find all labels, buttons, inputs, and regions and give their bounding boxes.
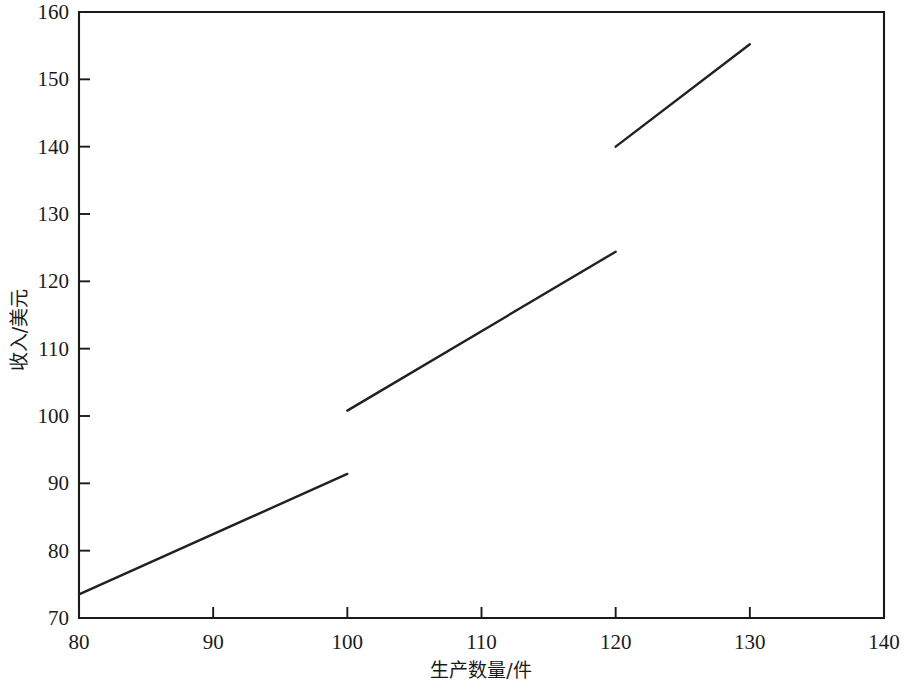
- x-tick-label-120: 120: [600, 630, 632, 654]
- y-tick-label-130: 130: [38, 202, 70, 226]
- x-tick-label-140: 140: [868, 630, 900, 654]
- income-vs-quantity-line-chart: 708090100110120130140150160 809010011012…: [0, 0, 903, 688]
- y-tick-label-80: 80: [48, 539, 69, 563]
- x-tick-label-90: 90: [203, 630, 224, 654]
- chart-figure: 708090100110120130140150160 809010011012…: [0, 0, 903, 688]
- y-tick-label-140: 140: [38, 135, 70, 159]
- y-tick-label-90: 90: [48, 471, 69, 495]
- chart-background: [0, 0, 903, 688]
- x-tick-label-130: 130: [734, 630, 766, 654]
- y-tick-label-70: 70: [48, 606, 69, 630]
- y-tick-label-100: 100: [38, 404, 70, 428]
- y-tick-label-150: 150: [38, 67, 70, 91]
- x-axis-title: 生产数量/件: [430, 659, 531, 681]
- x-tick-label-80: 80: [69, 630, 90, 654]
- y-axis-title: 收入/美元: [8, 289, 30, 371]
- x-tick-label-110: 110: [466, 630, 497, 654]
- y-tick-label-160: 160: [38, 0, 70, 24]
- y-tick-label-120: 120: [38, 269, 70, 293]
- y-tick-label-110: 110: [38, 337, 69, 361]
- x-tick-label-100: 100: [332, 630, 364, 654]
